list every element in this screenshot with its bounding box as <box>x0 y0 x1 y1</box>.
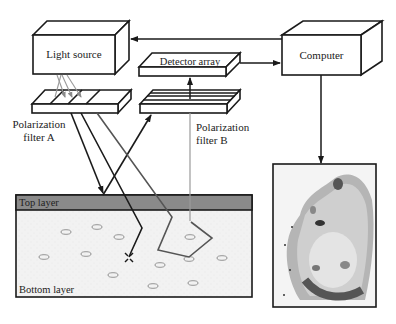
tissue-scan-image <box>273 164 376 307</box>
filter-a-label-line2: filter A <box>6 131 72 144</box>
polarization-filter-a <box>32 90 131 113</box>
computer-label: Computer <box>282 49 361 62</box>
detector-array-label: Detector array <box>148 55 232 68</box>
filter-a-label-line1: Polarization <box>6 118 72 131</box>
computer-box <box>282 21 382 75</box>
filter-b-label-line2: filter B <box>196 134 227 147</box>
light-source-label: Light source <box>33 48 115 61</box>
bottom-layer-label: Bottom layer <box>19 283 74 296</box>
top-layer-label: Top layer <box>19 196 59 209</box>
filter-b-label-line1: Polarization <box>196 121 249 134</box>
